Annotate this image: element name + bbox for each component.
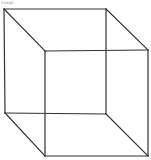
cube-edge [4, 9, 45, 51]
cube-edge [5, 113, 106, 114]
cube-figure [0, 0, 151, 160]
cube-edge [106, 9, 148, 50]
cube-edge [45, 50, 148, 51]
cube-edge [4, 9, 5, 113]
cube-edge [5, 113, 45, 156]
cube-edge [106, 114, 148, 156]
